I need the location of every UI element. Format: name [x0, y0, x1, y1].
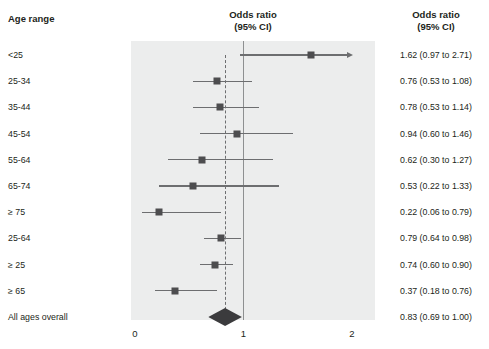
plot-panel — [131, 41, 375, 320]
age-range-label: All ages overall — [8, 312, 68, 322]
odds-ratio-value: 1.62 (0.97 to 2.71) — [386, 50, 486, 60]
pooled-estimate-dashed-line — [225, 55, 226, 320]
point-estimate-marker — [199, 156, 206, 163]
odds-ratio-value: 0.22 (0.06 to 0.79) — [386, 207, 486, 217]
confidence-interval-line — [142, 212, 221, 213]
age-range-label: ≥ 75 — [8, 207, 25, 217]
x-axis-tick-0: 0 — [132, 328, 137, 339]
confidence-interval-line — [193, 107, 259, 108]
age-range-label: 65-74 — [8, 181, 31, 191]
column-header-odds-ratio-plot: Odds ratio (95% CI) — [131, 9, 375, 32]
summary-diamond — [208, 308, 242, 326]
confidence-interval-line — [240, 54, 347, 55]
point-estimate-marker — [212, 261, 219, 268]
odds-ratio-value: 0.83 (0.69 to 1.00) — [386, 312, 486, 322]
null-reference-line — [243, 41, 245, 320]
odds-ratio-value: 0.62 (0.30 to 1.27) — [386, 155, 486, 165]
forest-plot: Age range Odds ratio (95% CI) Odds ratio… — [0, 0, 489, 349]
point-estimate-marker — [189, 183, 196, 190]
confidence-interval-line — [200, 133, 293, 134]
age-range-label: 55-64 — [8, 155, 31, 165]
x-axis-tick-2: 2 — [349, 328, 354, 339]
point-estimate-marker — [307, 52, 314, 59]
age-range-label: 25-34 — [8, 76, 31, 86]
odds-ratio-value: 0.76 (0.53 to 1.08) — [386, 76, 486, 86]
odds-ratio-value: 0.53 (0.22 to 1.33) — [386, 181, 486, 191]
confidence-interval-line — [155, 290, 218, 291]
age-range-label: 25-64 — [8, 233, 31, 243]
odds-ratio-value: 0.74 (0.60 to 0.90) — [386, 260, 486, 270]
point-estimate-marker — [233, 130, 240, 137]
ci-truncation-arrow — [347, 52, 353, 58]
odds-ratio-value: 0.79 (0.64 to 0.98) — [386, 233, 486, 243]
age-range-label: 45-54 — [8, 129, 31, 139]
age-range-label: <25 — [8, 50, 23, 60]
point-estimate-marker — [217, 235, 224, 242]
confidence-interval-line — [193, 81, 253, 82]
column-header-age-range: Age range — [8, 13, 54, 25]
age-range-label: ≥ 65 — [8, 286, 25, 296]
odds-ratio-value: 0.78 (0.53 to 1.14) — [386, 102, 486, 112]
column-header-odds-ratio-value: Odds ratio (95% CI) — [386, 9, 486, 32]
confidence-interval-line — [168, 159, 273, 160]
confidence-interval-line — [159, 185, 279, 186]
point-estimate-marker — [214, 78, 221, 85]
x-axis-tick-1: 1 — [241, 328, 246, 339]
age-range-label: 35-44 — [8, 102, 31, 112]
odds-ratio-value: 0.94 (0.60 to 1.46) — [386, 129, 486, 139]
point-estimate-marker — [172, 287, 179, 294]
point-estimate-marker — [216, 104, 223, 111]
age-range-label: ≥ 25 — [8, 260, 25, 270]
odds-ratio-value: 0.37 (0.18 to 0.76) — [386, 286, 486, 296]
point-estimate-marker — [155, 209, 162, 216]
